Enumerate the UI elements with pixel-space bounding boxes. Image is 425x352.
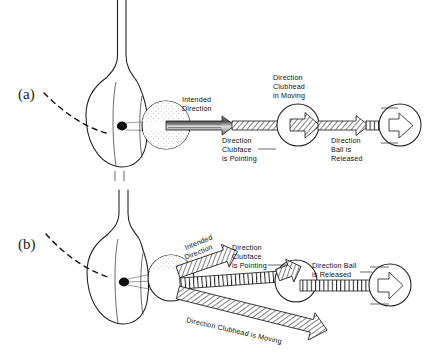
svg-text:Direction Ball: Direction Ball xyxy=(312,261,357,270)
svg-text:Clubhead: Clubhead xyxy=(273,82,305,91)
svg-text:is Released: is Released xyxy=(312,270,351,279)
svg-text:Direction: Direction xyxy=(182,104,212,113)
center-of-gravity-dot-a xyxy=(117,122,127,131)
figure-root: (a) xyxy=(0,0,425,352)
svg-text:Direction: Direction xyxy=(232,243,262,252)
panel-b-letter: (b) xyxy=(18,236,36,253)
golf-direction-figure: (a) xyxy=(0,0,425,352)
svg-text:Intended: Intended xyxy=(182,95,211,104)
svg-text:Clubface: Clubface xyxy=(222,145,252,154)
svg-text:Direction: Direction xyxy=(273,73,303,82)
svg-text:is Pointing: is Pointing xyxy=(232,261,267,270)
center-of-gravity-dot-b xyxy=(119,278,129,287)
panel-a-letter: (a) xyxy=(18,86,35,103)
svg-text:Clubface: Clubface xyxy=(232,252,262,261)
label-direction-clubhead-a: Direction Clubhead in Moving xyxy=(273,73,305,100)
svg-text:Released: Released xyxy=(331,154,363,163)
svg-text:Direction: Direction xyxy=(222,136,252,145)
svg-text:Ball is: Ball is xyxy=(331,145,351,154)
svg-text:Direction: Direction xyxy=(331,136,361,145)
svg-text:is Pointing: is Pointing xyxy=(222,154,257,163)
label-intended-direction-a: Intended Direction xyxy=(182,95,212,113)
svg-text:in Moving: in Moving xyxy=(273,91,305,100)
